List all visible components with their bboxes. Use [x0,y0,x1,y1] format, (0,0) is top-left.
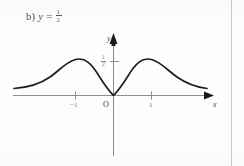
function-curve [14,59,207,96]
y-axis-arrow-base [112,41,116,46]
x-axis-label: x [212,100,217,109]
figure-page: b) y = 1 2 y x O −1 1 1 [0,0,244,166]
graph-plot: y x O −1 1 [0,0,244,166]
x-axis-arrow-icon [204,92,214,100]
y-tick-numerator: 1 [102,55,105,61]
y-tick-label-half: 1 2 [101,55,106,68]
origin-label: O [103,100,109,109]
y-tick-denominator: 2 [102,62,105,68]
y-axis-label: y [106,34,111,43]
x-tick-label-pos1: 1 [149,101,153,109]
x-tick-label-neg1: −1 [70,101,78,109]
